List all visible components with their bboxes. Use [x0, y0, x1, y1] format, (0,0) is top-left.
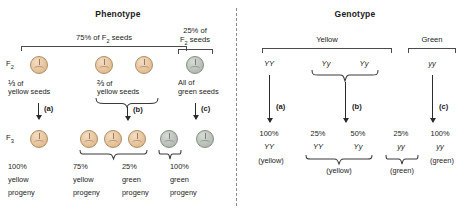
f2-caption-a-line2: yellow seeds: [8, 88, 50, 96]
f3-seed-yellow-b1: [80, 130, 98, 148]
f2-seed-green-c: [186, 56, 204, 74]
genotype-offspring-b2-pct: 50%: [351, 130, 366, 138]
seed-ridge-icon: [84, 140, 94, 145]
seed-hilum-icon: [113, 133, 114, 140]
seed-ridge-icon: [164, 140, 174, 145]
genotype-offspring-b2-genotype: Yy: [354, 143, 363, 151]
f3-caption-b1-line3: progeny: [73, 189, 100, 197]
brace-f3-yellow-75: [79, 150, 148, 160]
genotype-group-pheno-green: (green): [390, 167, 414, 175]
genotype-offspring-c-pheno: (green): [430, 157, 454, 165]
panel-divider: [236, 8, 237, 206]
arrow-genotype-step-c: [432, 75, 433, 122]
f3-caption-b2-line3: progeny: [122, 189, 149, 197]
f3-caption-c-line3: progeny: [170, 189, 197, 197]
genotype-parent-Yy-2: Yy: [360, 60, 369, 68]
genotype-offspring-b3-genotype: yy: [397, 143, 405, 151]
genotype-offspring-a-pct: 100%: [260, 130, 279, 138]
f3-caption-b2-pct: 25%: [122, 163, 137, 171]
f2-75-percent-label: 75% of F2 seeds: [76, 34, 132, 44]
genetics-inheritance-diagram: Phenotype 75% of F2 seeds 25% of F2 seed…: [0, 0, 469, 211]
seed-ridge-icon: [132, 140, 142, 145]
f2-seed-yellow-a: [30, 56, 48, 74]
f2-caption-c-line2: green seeds: [178, 88, 219, 96]
genotype-group-green-label: Green: [421, 36, 442, 44]
f3-caption-b1-line2: yellow: [73, 176, 94, 184]
genotype-offspring-c-pct: 100%: [431, 130, 450, 138]
seed-hilum-icon: [137, 133, 138, 140]
genotype-offspring-b1-pct: 25%: [311, 130, 326, 138]
bracket-genotype-green: [408, 48, 456, 53]
arrow-step-b: [127, 107, 128, 120]
seed-hilum-icon: [195, 59, 196, 66]
step-label-c: (c): [201, 105, 210, 113]
brace-genotype-green-offspring: [385, 155, 419, 165]
arrow-step-a: [38, 103, 39, 119]
seed-ridge-icon: [139, 66, 149, 71]
f3-caption-c-line2: green: [170, 176, 189, 184]
step-label-a: (a): [44, 105, 53, 113]
f3-caption-b2-line2: green: [122, 176, 141, 184]
seed-hilum-icon: [169, 133, 170, 140]
generation-label-f2: F2: [6, 60, 14, 70]
genotype-step-label-a: (a): [276, 103, 285, 111]
f3-seed-yellow-a: [30, 130, 48, 148]
f2-caption-c-line1: All of: [178, 79, 194, 87]
seed-ridge-icon: [190, 66, 200, 71]
seed-hilum-icon: [39, 59, 40, 66]
f3-caption-a-line2: yellow: [8, 176, 29, 184]
f3-seed-green-c: [196, 130, 214, 148]
f2-seed-yellow-b1: [95, 56, 113, 74]
genotype-offspring-a-pheno: (yellow): [258, 157, 283, 165]
brace-f3-green-25: [158, 150, 182, 160]
bracket-f2-75: [21, 46, 187, 51]
genotype-parent-Yy-1: Yy: [322, 60, 331, 68]
f3-caption-b1-pct: 75%: [73, 163, 88, 171]
genotype-group-yellow-label: Yellow: [316, 36, 338, 44]
genotype-step-label-b: (b): [352, 103, 362, 111]
f2-25-percent-label-line2: F2 seeds: [180, 36, 210, 46]
genotype-panel-title: Genotype: [335, 10, 376, 19]
genotype-offspring-a-genotype: YY: [264, 143, 274, 151]
brace-genotype-yellow-offspring: [305, 155, 373, 165]
arrow-step-c: [195, 103, 196, 119]
f2-seed-yellow-b2: [135, 56, 153, 74]
f3-seed-green-b4: [160, 130, 178, 148]
seed-hilum-icon: [104, 59, 105, 66]
arrow-genotype-step-b: [345, 82, 346, 122]
f2-25-percent-label-line1: 25% of: [183, 27, 207, 35]
seed-ridge-icon: [108, 140, 118, 145]
genotype-parent-yy: yy: [428, 60, 436, 68]
genotype-offspring-b1-genotype: YY: [313, 143, 323, 151]
brace-genotype-Yy-pair: [311, 70, 379, 82]
f3-caption-c-pct: 100%: [170, 163, 189, 171]
genotype-group-pheno-yellow: (yellow): [326, 167, 351, 175]
genotype-offspring-b3-pct: 25%: [394, 130, 409, 138]
seed-hilum-icon: [205, 133, 206, 140]
genotype-step-label-c: (c): [439, 103, 448, 111]
seed-ridge-icon: [99, 66, 109, 71]
f3-caption-a-line3: progeny: [8, 189, 35, 197]
seed-hilum-icon: [39, 133, 40, 140]
f3-seed-yellow-b3: [128, 130, 146, 148]
generation-label-f3: F3: [6, 134, 14, 144]
genotype-offspring-c-genotype: yy: [436, 143, 444, 151]
step-label-b: (b): [133, 106, 143, 114]
seed-hilum-icon: [89, 133, 90, 140]
bracket-f2-25: [178, 49, 213, 54]
seed-ridge-icon: [200, 140, 210, 145]
seed-ridge-icon: [34, 140, 44, 145]
f3-seed-yellow-b2: [104, 130, 122, 148]
phenotype-panel-title: Phenotype: [95, 10, 140, 19]
bracket-genotype-yellow: [262, 48, 392, 53]
arrow-genotype-step-a: [269, 75, 270, 122]
genotype-parent-YY: YY: [264, 60, 274, 68]
seed-hilum-icon: [144, 59, 145, 66]
seed-ridge-icon: [34, 66, 44, 71]
f3-caption-a-pct: 100%: [8, 163, 27, 171]
f2-caption-b-line2: yellow seeds: [97, 88, 139, 96]
